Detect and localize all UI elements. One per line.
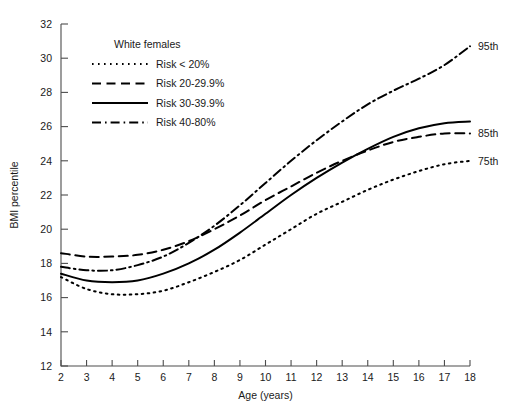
percentile-end-label: 85th [478,127,499,139]
x-tick-label: 3 [84,371,90,383]
legend-label-1: Risk < 20% [156,58,209,70]
y-tick-label: 16 [40,291,52,303]
x-tick-label: 12 [311,371,323,383]
y-tick-label: 30 [40,52,52,64]
y-tick-label: 28 [40,86,52,98]
x-tick-label: 8 [211,371,217,383]
percentile-end-label: 95th [478,40,499,52]
bmi-percentile-chart: 1214161820222426283032234567891011121314… [0,0,518,407]
x-tick-label: 5 [135,371,141,383]
series-line-4 [61,46,470,271]
x-tick-label: 4 [109,371,115,383]
x-tick-label: 17 [439,371,451,383]
y-tick-label: 20 [40,223,52,235]
x-tick-label: 6 [160,371,166,383]
x-tick-label: 15 [387,371,399,383]
y-axis-title: BMI percentile [8,161,20,228]
x-axis-title: Age (years) [238,389,292,401]
x-tick-label: 11 [286,371,297,383]
y-tick-label: 26 [40,120,52,132]
x-tick-label: 7 [186,371,192,383]
x-tick-label: 9 [237,371,243,383]
y-tick-label: 18 [40,257,52,269]
y-tick-label: 14 [40,326,52,338]
x-tick-label: 16 [413,371,425,383]
x-tick-label: 18 [464,371,476,383]
x-tick-label: 13 [336,371,348,383]
y-tick-label: 24 [40,155,52,167]
x-tick-label: 10 [260,371,272,383]
x-tick-label: 2 [58,371,64,383]
legend-label-4: Risk 40-80% [156,116,216,128]
y-tick-label: 12 [40,360,52,372]
legend-label-3: Risk 30-39.9% [156,97,224,109]
series-line-3 [61,121,470,282]
percentile-end-label: 75th [478,155,499,167]
chart-canvas: 1214161820222426283032234567891011121314… [0,0,518,407]
y-tick-label: 32 [40,18,52,30]
axis-spine [61,24,470,366]
legend-title: White females [114,38,181,50]
x-tick-label: 14 [362,371,374,383]
legend-label-2: Risk 20-29.9% [156,77,224,89]
series-line-1 [61,161,470,295]
series-line-2 [61,133,470,257]
y-tick-label: 22 [40,189,52,201]
